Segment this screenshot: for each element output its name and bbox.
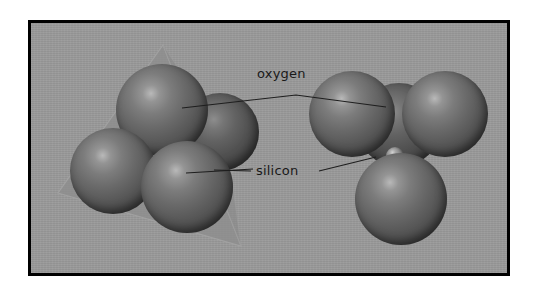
oxygen-label: oxygen [257,67,306,80]
molecular-scene: oxygen silicon [31,23,507,273]
figure-illustration: oxygen silicon [0,0,538,293]
silicon-leader-line-right [319,157,376,171]
silicon-label: silicon [256,164,298,177]
leader-lines [31,23,507,273]
image-frame: oxygen silicon [28,20,510,276]
oxygen-leader-line [182,95,386,108]
